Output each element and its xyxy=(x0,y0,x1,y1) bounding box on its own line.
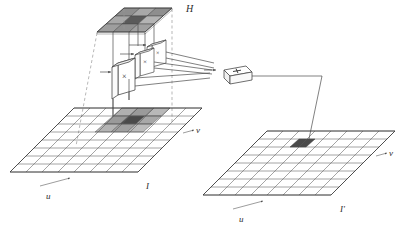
multiplier-2-symbol: × xyxy=(143,58,147,66)
output-image-plane xyxy=(203,131,395,209)
output-image-label: I' xyxy=(340,205,345,214)
output-axis-u-label: u xyxy=(239,215,244,224)
multiplier-1-symbol: × xyxy=(122,72,127,81)
adder-box xyxy=(224,66,252,84)
multiplier-3-symbol: × xyxy=(156,50,159,56)
convolution-diagram: H u v I u v I' × × × xyxy=(0,0,401,236)
output-result-pixel xyxy=(290,139,315,147)
kernel-label: H xyxy=(186,4,193,14)
output-axis-v-label: v xyxy=(389,149,393,158)
diagram-canvas xyxy=(0,0,401,236)
input-image-label: I xyxy=(146,182,149,191)
input-image-plane xyxy=(10,108,202,186)
adder-to-output-link xyxy=(252,76,322,139)
kernel-plane xyxy=(97,8,172,34)
input-axis-v-label: v xyxy=(196,126,200,135)
input-axis-u-label: u xyxy=(46,192,51,201)
input-highlight-cells xyxy=(95,108,170,132)
